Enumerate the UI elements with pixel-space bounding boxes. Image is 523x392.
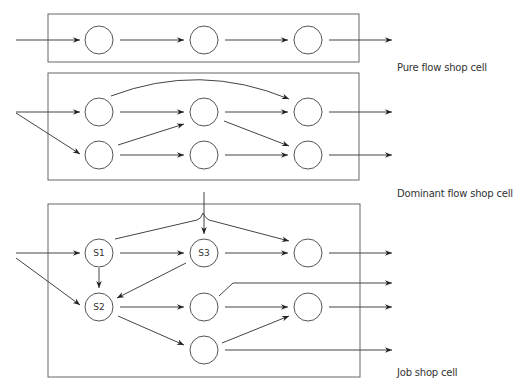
- machine-node: [294, 293, 322, 321]
- machine-node: [190, 336, 218, 364]
- job-shop-arrows: [16, 192, 392, 350]
- cell-label-pure-flow: Pure flow shop cell: [397, 62, 487, 73]
- node-s2-label: S2: [93, 302, 104, 312]
- machine-node: [85, 141, 113, 169]
- machine-node: [190, 26, 218, 54]
- machine-node: [294, 239, 322, 267]
- dominant-flow-nodes: [85, 98, 322, 169]
- machine-node: [294, 141, 322, 169]
- machine-node: [85, 98, 113, 126]
- node-s1-label: S1: [93, 248, 104, 258]
- cell-label-job-shop: Job shop cell: [397, 367, 457, 378]
- machine-node: [85, 26, 113, 54]
- cell-label-dominant-flow: Dominant flow shop cell: [397, 188, 513, 199]
- machine-node: [190, 293, 218, 321]
- machine-node: [190, 98, 218, 126]
- machine-node: [294, 98, 322, 126]
- node-s3-label: S3: [198, 248, 209, 258]
- machine-node: [294, 26, 322, 54]
- machine-node: [190, 141, 218, 169]
